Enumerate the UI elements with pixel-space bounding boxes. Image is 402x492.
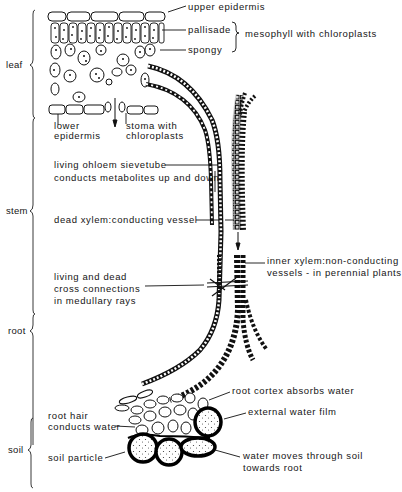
label-root-hair-1: root hair: [48, 410, 88, 421]
label-inner-xylem-2: vessels - in perennial plants: [267, 267, 402, 278]
upper-epidermis-cells: [48, 12, 165, 21]
label-rays-1: living and dead: [54, 271, 127, 282]
label-stoma-2: chloroplasts: [126, 130, 184, 141]
spongy-cells: [50, 44, 155, 102]
soil-bracket: [28, 418, 33, 488]
label-root-cortex: root cortex absorbs water: [232, 385, 354, 396]
label-water-moves-1: water moves through soil: [243, 450, 363, 461]
label-phloem-1: living ohloem sievetube: [54, 159, 167, 170]
lower-epidermis-cells: [49, 102, 158, 114]
label-upper-epidermis: upper epidermis: [188, 1, 265, 12]
stem-bracket: [30, 118, 35, 314]
label-lower-epidermis-2: epidermis: [54, 130, 101, 141]
inner-xylem: [170, 255, 238, 400]
label-spongy: spongy: [188, 44, 222, 55]
region-label-soil: soil: [8, 444, 23, 455]
root-cortex-cells: [115, 388, 208, 435]
region-label-root: root: [8, 325, 26, 336]
label-root-hair-2: conducts water: [48, 421, 120, 432]
label-mesophyll: mesophyll with chloroplasts: [245, 28, 377, 39]
label-water-film: external water film: [248, 406, 336, 417]
leaf-bracket: [30, 10, 35, 118]
label-rays-3: in medullary rays: [54, 295, 136, 306]
label-pallisade: pallisade: [188, 24, 231, 35]
palisade-cells: [51, 23, 164, 43]
label-inner-xylem-1: inner xylem:non-conducting: [267, 255, 399, 266]
stoma-arrow: [113, 98, 117, 127]
label-water-moves-2: towards root: [243, 462, 302, 473]
region-label-leaf: leaf: [6, 59, 23, 70]
region-brackets: [28, 10, 35, 488]
flow-arrow: [236, 232, 240, 250]
region-label-stem: stem: [6, 205, 28, 216]
label-dead-xylem: dead xylem:conducting vessel: [54, 214, 198, 225]
label-rays-2: cross connections: [54, 283, 140, 294]
label-phloem-2: conducts metabolites up and down: [54, 172, 220, 183]
label-soil-particle: soil particle: [48, 452, 103, 463]
